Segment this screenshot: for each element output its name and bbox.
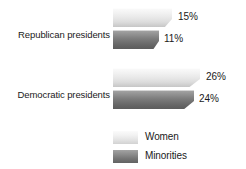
value-label-republican-minorities: 11%	[164, 33, 183, 44]
value-label-democratic-women: 26%	[206, 71, 226, 82]
value-label-republican-women: 15%	[178, 11, 198, 22]
bar-fill	[113, 90, 194, 109]
bar-republican-minorities	[113, 30, 159, 49]
bar-chart: Republican presidents 15% 11% Democratic…	[0, 0, 246, 169]
bar-republican-women	[113, 8, 172, 27]
bar-democratic-minorities	[113, 90, 194, 109]
bar-fill	[113, 8, 172, 27]
value-label-democratic-minorities: 24%	[199, 93, 219, 104]
category-label-republican-presidents: Republican presidents	[0, 29, 110, 40]
bar-fill	[113, 68, 200, 87]
bar-fill	[113, 30, 159, 49]
legend-label-women: Women	[145, 131, 179, 142]
category-label-democratic-presidents: Democratic presidents	[0, 89, 110, 100]
bar-democratic-women	[113, 68, 200, 87]
legend-label-minorities: Minorities	[145, 150, 187, 161]
legend-swatch-minorities-icon	[113, 150, 138, 163]
legend-swatch-women-icon	[113, 131, 138, 144]
